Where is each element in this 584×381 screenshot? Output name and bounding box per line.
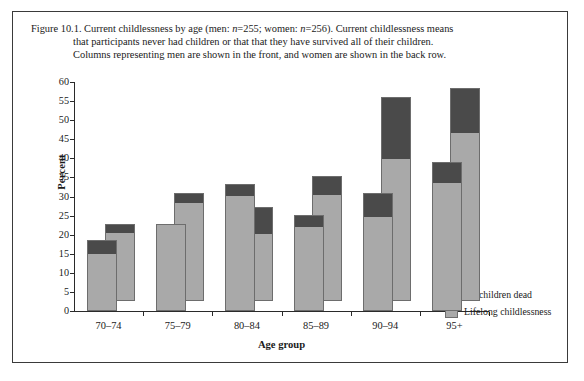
y-tick-label: 5 — [45, 287, 69, 297]
y-tick-label: 55 — [45, 96, 69, 106]
y-tick-label: 60 — [45, 77, 69, 87]
chart-plot-area: Percent 051015202530354045505560 70–7475… — [13, 12, 569, 364]
x-tick-mark — [420, 312, 421, 316]
segment-all-children-dead — [364, 194, 392, 217]
bar-men — [87, 240, 117, 311]
x-tick-mark — [282, 312, 283, 316]
y-tick-label: 40 — [45, 153, 69, 163]
bar-men — [156, 224, 186, 311]
segment-all-children-dead — [433, 163, 461, 183]
segment-lifelong-childlessness — [226, 196, 254, 310]
segment-all-children-dead — [382, 98, 410, 159]
segment-all-children-dead — [88, 241, 116, 254]
y-tick-label: 20 — [45, 230, 69, 240]
y-tick-label: 15 — [45, 249, 69, 259]
y-tick-label: 10 — [45, 268, 69, 278]
segment-all-children-dead — [451, 89, 479, 133]
x-tick-mark — [351, 312, 352, 316]
x-tick-mark — [212, 312, 213, 316]
x-tick-label: 80–84 — [212, 320, 282, 331]
x-tick-label: 70–74 — [74, 320, 144, 331]
x-tick-label: 90–94 — [350, 320, 420, 331]
y-tick-label: 30 — [45, 192, 69, 202]
segment-lifelong-childlessness — [157, 225, 185, 310]
segment-all-children-dead — [313, 177, 341, 195]
x-axis-title: Age group — [74, 339, 489, 350]
segment-all-children-dead — [226, 185, 254, 196]
segment-all-children-dead — [175, 194, 203, 203]
bar-men — [294, 215, 324, 311]
y-axis-line — [74, 82, 75, 312]
segment-lifelong-childlessness — [433, 183, 461, 310]
figure-frame: Figure 10.1. Current childlessness by ag… — [12, 11, 568, 363]
x-tick-mark — [143, 312, 144, 316]
y-axis-tick-labels: 051015202530354045505560 — [41, 12, 69, 364]
segment-all-children-dead — [106, 225, 134, 233]
y-tick-label: 50 — [45, 115, 69, 125]
segment-lifelong-childlessness — [88, 254, 116, 310]
x-tick-label: 85–89 — [281, 320, 351, 331]
y-tick-label: 45 — [45, 134, 69, 144]
y-tick-label: 35 — [45, 172, 69, 182]
segment-all-children-dead — [295, 216, 323, 227]
segment-lifelong-childlessness — [295, 227, 323, 310]
bar-men — [225, 184, 255, 311]
y-tick-label: 0 — [45, 306, 69, 316]
legend-label: Lifelong childlessness — [464, 306, 551, 317]
bar-men — [363, 193, 393, 311]
segment-lifelong-childlessness — [364, 217, 392, 310]
y-tick-label: 25 — [45, 211, 69, 221]
x-tick-label: 75–79 — [143, 320, 213, 331]
bar-men — [432, 162, 462, 311]
